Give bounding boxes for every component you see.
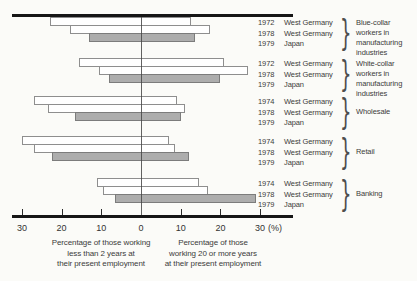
group-brace: } xyxy=(340,15,351,51)
row-year-label: 1974 xyxy=(258,97,280,106)
row-year-label: 1974 xyxy=(258,137,280,146)
tick-label: 20 xyxy=(50,223,74,233)
x-axis-line xyxy=(12,215,293,218)
row-year-label: 1974 xyxy=(258,179,280,188)
row-country-label: West Germany xyxy=(284,148,342,157)
row-country-label: West Germany xyxy=(284,70,342,79)
row-country-label: West Germany xyxy=(284,97,342,106)
group-label-retail: Retail xyxy=(356,147,416,157)
row-country-label: West Germany xyxy=(284,179,342,188)
tick-label: 30 xyxy=(10,223,34,233)
row-country-label: Japan xyxy=(284,200,342,209)
row-year-label: 1972 xyxy=(258,59,280,68)
group-label-line: workers in xyxy=(356,28,416,38)
row-year-label: 1978 xyxy=(258,70,280,79)
row-year-label: 1979 xyxy=(258,200,280,209)
row-year-label: 1979 xyxy=(258,118,280,127)
caption-line: Percentage of those xyxy=(138,238,288,249)
row-year-label: 1972 xyxy=(258,18,280,27)
row-year-label: 1979 xyxy=(258,39,280,48)
tick-mark xyxy=(181,209,182,215)
axis-caption-right: Percentage of those working 20 or more y… xyxy=(138,238,288,270)
row-year-label: 1979 xyxy=(258,80,280,89)
bar-japan-1979 xyxy=(109,74,220,83)
row-country-label: West Germany xyxy=(284,190,342,199)
row-country-label: Japan xyxy=(284,80,342,89)
caption-line: working 20 or more years xyxy=(138,249,288,260)
row-year-label: 1978 xyxy=(258,148,280,157)
group-brace: } xyxy=(340,134,351,170)
row-country-label: West Germany xyxy=(284,29,342,38)
group-label-line: industries xyxy=(356,89,416,99)
tick-mark xyxy=(62,209,63,215)
row-year-label: 1979 xyxy=(258,158,280,167)
tenure-chart-figure: 3020100102030 1972West Germany1978West G… xyxy=(0,0,417,281)
row-year-label: 1978 xyxy=(258,29,280,38)
bar-japan-1979 xyxy=(52,152,189,161)
group-label-banking: Banking xyxy=(356,189,416,199)
row-year-label: 1978 xyxy=(258,108,280,117)
bar-japan-1979 xyxy=(75,112,180,121)
axis-unit-label: (%) xyxy=(268,223,282,233)
tick-label: 0 xyxy=(129,223,153,233)
row-country-label: West Germany xyxy=(284,108,342,117)
caption-line: at their present employment xyxy=(138,259,288,270)
tick-mark xyxy=(101,209,102,215)
group-label-line: Wholesale xyxy=(356,107,416,117)
zero-baseline xyxy=(141,17,142,215)
group-label-blue-collar: Blue-collarworkers inmanufacturingindust… xyxy=(356,18,416,58)
row-country-label: Japan xyxy=(284,118,342,127)
group-label-line: manufacturing xyxy=(356,79,416,89)
group-label-line: Blue-collar xyxy=(356,18,416,28)
group-label-white-collar: White-collarworkers inmanufacturingindus… xyxy=(356,59,416,99)
group-label-line: Retail xyxy=(356,147,416,157)
group-label-line: Banking xyxy=(356,189,416,199)
tick-mark xyxy=(220,209,221,215)
row-country-label: West Germany xyxy=(284,59,342,68)
tick-label: 20 xyxy=(208,223,232,233)
tick-label: 10 xyxy=(89,223,113,233)
group-label-line: manufacturing xyxy=(356,38,416,48)
group-brace: } xyxy=(340,176,351,212)
group-label-line: White-collar xyxy=(356,59,416,69)
tick-label: 10 xyxy=(169,223,193,233)
row-country-label: Japan xyxy=(284,158,342,167)
group-brace: } xyxy=(340,56,351,92)
row-year-label: 1978 xyxy=(258,190,280,199)
group-label-line: industries xyxy=(356,48,416,58)
tick-mark xyxy=(22,209,23,215)
bar-japan-1979 xyxy=(115,194,256,203)
group-label-line: workers in xyxy=(356,69,416,79)
group-brace: } xyxy=(340,94,351,130)
row-country-label: West Germany xyxy=(284,137,342,146)
row-country-label: West Germany xyxy=(284,18,342,27)
group-label-wholesale: Wholesale xyxy=(356,107,416,117)
row-country-label: Japan xyxy=(284,39,342,48)
tick-mark xyxy=(260,209,261,215)
